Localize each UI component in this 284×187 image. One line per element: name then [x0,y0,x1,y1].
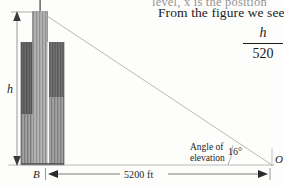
hypotenuse-line-of-sight [41,12,272,165]
baseline-distance-label: 5200 ft [124,169,153,180]
angle-description-label: Angle of elevation [190,142,225,164]
observer-point-label: O [275,153,283,165]
building-graphic [21,0,64,165]
building-right-block-lower [49,97,64,165]
height-label: h [7,82,13,97]
baseline-arrow-head-left [48,170,58,178]
height-arrow-head-down [13,156,21,166]
trigonometry-figure: level, x is the position From the figure… [0,0,284,187]
diagram-canvas [0,0,284,187]
angle-value-label: 16° [228,146,242,157]
height-arrow-head-up [13,11,21,21]
baseline-dimension-arrow [46,168,271,180]
baseline-arrow-head-right [258,170,268,178]
angle-description-line2: elevation [190,153,225,164]
base-point-label: B [33,168,40,180]
antenna-icon [39,0,41,12]
height-dimension-arrow [13,11,21,166]
angle-description-line1: Angle of [190,142,225,153]
building-center-tower [33,11,48,165]
